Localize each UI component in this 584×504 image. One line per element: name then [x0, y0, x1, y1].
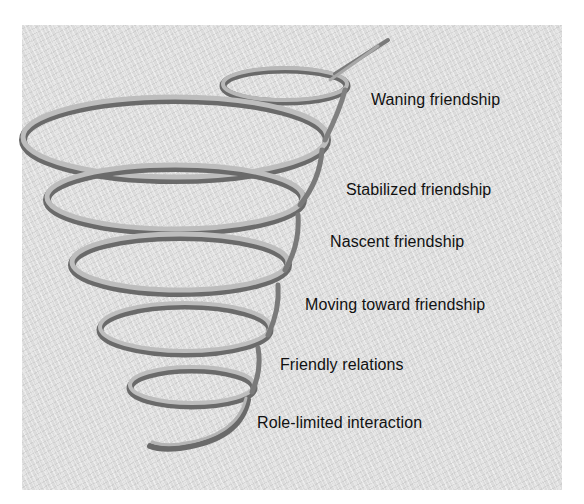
stage-label-nascent-friendship: Nascent friendship	[330, 233, 464, 251]
stage-label-role-limited-interaction: Role-limited interaction	[257, 414, 422, 432]
spiral-loop-role-limited	[130, 348, 259, 449]
stage-label-moving-toward-friendship: Moving toward friendship	[305, 296, 485, 314]
stage-label-friendly-relations: Friendly relations	[280, 356, 404, 374]
spiral-loop-nascent	[47, 150, 322, 232]
stage-label-stabilized-friendship: Stabilized friendship	[346, 181, 491, 199]
stage-label-waning-friendship: Waning friendship	[371, 91, 500, 109]
spiral-loop-waning	[223, 40, 388, 102]
